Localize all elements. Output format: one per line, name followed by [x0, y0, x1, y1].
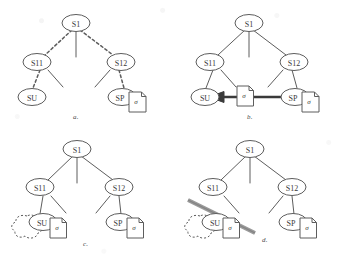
panel-d-node-left: S11	[199, 179, 227, 196]
panel-c-node-right: S12	[105, 179, 133, 196]
panel-c-su-label: SU	[37, 219, 47, 228]
panel-b-root-label: S1	[245, 20, 253, 29]
panel-c-su-sigma-glyph: σ	[55, 224, 59, 232]
panel-b-node-su: SU	[191, 89, 219, 106]
panel-d-document-icon-sp: σ	[300, 218, 317, 238]
panel-d-caption: d.	[262, 236, 268, 244]
panel-c-left-label: S11	[34, 184, 46, 193]
panel-b-transfer-sigma-glyph: σ	[242, 92, 246, 100]
panel-b-left-label: S11	[204, 59, 216, 68]
panel-d: S1 S11 S12 SU	[173, 130, 346, 259]
panel-d-root-label: S1	[246, 146, 254, 155]
panel-a: S1 S11 S12 SU SP σ	[0, 0, 173, 129]
panel-a-right-label: S12	[115, 59, 127, 68]
panel-c-right-label: S12	[113, 184, 125, 193]
panel-d-node-right: S12	[278, 179, 306, 196]
panel-a-solid-stubs	[48, 31, 110, 87]
panel-a-su-label: SU	[27, 94, 37, 103]
panel-c-node-left: S11	[26, 179, 54, 196]
panel-a-node-right: S12	[107, 54, 135, 71]
panel-d-su-label: SU	[210, 219, 220, 228]
panel-a-sigma-glyph: σ	[134, 98, 138, 106]
panel-c-node-root: S1	[63, 141, 91, 158]
panel-b-right-label: S12	[288, 59, 300, 68]
panel-a-left-label: S11	[31, 59, 43, 68]
panel-d-left-label: S11	[207, 184, 219, 193]
panel-d-sp-sigma-glyph: σ	[305, 224, 309, 232]
panel-d-right-label: S12	[286, 184, 298, 193]
panel-b-diagram: S1 S11 S12 SU SP	[173, 0, 346, 129]
panel-b-node-left: S11	[196, 54, 224, 71]
panel-a-root-label: S1	[72, 20, 80, 29]
panel-d-su-sigma-glyph: σ	[228, 224, 232, 232]
panel-c-caption: c.	[83, 240, 88, 248]
panel-c-document-icon-su: σ	[50, 218, 67, 238]
panel-b-document-icon-sp: σ	[302, 92, 319, 112]
panel-a-node-left: S11	[23, 54, 51, 71]
panel-b-caption: b.	[247, 113, 253, 121]
panel-b-node-root: S1	[235, 15, 263, 32]
figure-container: S1 S11 S12 SU SP σ	[0, 0, 346, 259]
panel-a-caption: a.	[73, 113, 79, 121]
panel-b-sp-sigma-glyph: σ	[307, 98, 311, 106]
panel-b-node-right: S12	[280, 54, 308, 71]
panel-b-su-label: SU	[200, 94, 210, 103]
panel-d-sp-label: SP	[287, 219, 296, 228]
panel-c: S1 S11 S12 SU σ	[0, 130, 173, 259]
panel-b-document-icon-transfer: σ	[237, 86, 254, 106]
panel-c-root-label: S1	[73, 146, 81, 155]
panel-d-diagram: S1 S11 S12 SU	[173, 130, 346, 259]
panel-a-node-root: S1	[62, 15, 90, 32]
panel-b: S1 S11 S12 SU SP	[173, 0, 346, 129]
panel-b-sp-label: SP	[289, 94, 298, 103]
panel-a-sp-label: SP	[116, 94, 125, 103]
panel-d-node-root: S1	[236, 141, 264, 158]
panel-c-sp-label: SP	[114, 219, 123, 228]
panel-a-document-icon-sp: σ	[129, 92, 146, 112]
panel-d-document-icon-su: σ	[223, 218, 240, 238]
panel-a-diagram: S1 S11 S12 SU SP σ	[0, 0, 173, 129]
panel-a-node-su: SU	[18, 89, 46, 106]
panel-c-sp-sigma-glyph: σ	[132, 224, 136, 232]
panel-c-document-icon-sp: σ	[127, 218, 144, 238]
